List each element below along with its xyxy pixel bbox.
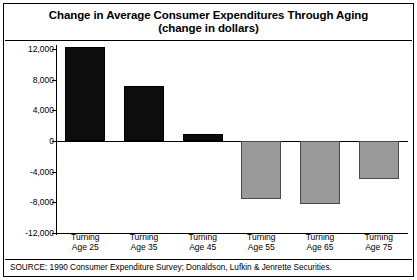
- x-axis-label-line: Turning: [349, 232, 408, 242]
- source-note: SOURCE: 1990 Consumer Expenditure Survey…: [10, 262, 332, 273]
- chart-frame: Change in Average Consumer Expenditures …: [3, 3, 414, 277]
- x-axis-label-line: Age 45: [173, 242, 232, 252]
- y-axis-tick-label: 12,000: [6, 45, 54, 53]
- source-divider: [5, 259, 412, 260]
- bar-slot: [232, 40, 291, 240]
- bar[interactable]: [300, 141, 340, 204]
- x-axis-label-line: Turning: [291, 232, 350, 242]
- y-axis-tick-label: 8,000: [6, 76, 54, 84]
- x-axis-tick-label: TurningAge 25: [56, 232, 115, 252]
- y-axis-tick-label: -4,000: [6, 168, 54, 176]
- x-axis-label-line: Age 25: [56, 242, 115, 252]
- x-axis-label-line: Age 75: [349, 242, 408, 252]
- x-axis-tick-label: TurningAge 45: [173, 232, 232, 252]
- chart-title-block: Change in Average Consumer Expenditures …: [4, 9, 413, 35]
- bar[interactable]: [124, 86, 164, 141]
- x-axis-tick-label: TurningAge 65: [291, 232, 350, 252]
- bar-series: [56, 40, 408, 240]
- bar-slot: [173, 40, 232, 240]
- y-axis-tick-label: -12,000: [6, 229, 54, 237]
- x-axis-label-line: Age 65: [291, 242, 350, 252]
- x-axis-label-line: Age 55: [232, 242, 291, 252]
- chart-subtitle: (change in dollars): [4, 22, 413, 35]
- bar[interactable]: [65, 47, 105, 141]
- x-axis-tick-label: TurningAge 75: [349, 232, 408, 252]
- x-axis-tick-label: TurningAge 35: [115, 232, 174, 252]
- y-axis-tick-label: -8,000: [6, 198, 54, 206]
- page-title: Change in Average Consumer Expenditures …: [4, 9, 413, 22]
- y-axis-tick-label: 4,000: [6, 106, 54, 114]
- x-axis-label-line: Age 35: [115, 242, 174, 252]
- x-axis-label-line: Turning: [56, 232, 115, 242]
- bar[interactable]: [359, 141, 399, 179]
- x-axis-label-line: Turning: [173, 232, 232, 242]
- bar[interactable]: [183, 134, 223, 141]
- x-axis-label-line: Turning: [232, 232, 291, 242]
- x-axis-tick-label: TurningAge 55: [232, 232, 291, 252]
- bar-slot: [349, 40, 408, 240]
- bar-slot: [115, 40, 174, 240]
- bar[interactable]: [241, 141, 281, 199]
- bar-slot: [56, 40, 115, 240]
- x-axis-label-line: Turning: [115, 232, 174, 242]
- x-axis-label-group: TurningAge 25TurningAge 35TurningAge 45T…: [56, 232, 408, 258]
- bar-slot: [291, 40, 350, 240]
- y-axis-tick-label: 0: [6, 137, 54, 145]
- plot-area: 12,0008,0004,0000-4,000-8,000-12,000: [4, 40, 413, 240]
